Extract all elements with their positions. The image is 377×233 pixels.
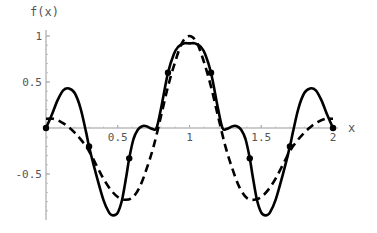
x-tick-label: 2 (330, 131, 337, 144)
data-point-marker (126, 155, 132, 161)
data-point-marker (287, 143, 293, 149)
y-tick-label: -0.5 (16, 168, 43, 181)
line-chart: 0.511.52 10.5-0.5 x f(x) (0, 0, 377, 233)
y-axis-label: f(x) (30, 5, 59, 19)
chart-container: 0.511.52 10.5-0.5 x f(x) (0, 0, 377, 233)
x-tick-label: 1 (186, 131, 193, 144)
x-tick-label: 1.5 (251, 131, 271, 144)
axes: 0.511.52 10.5-0.5 x f(x) (16, 5, 356, 220)
data-point-marker (43, 125, 49, 131)
data-point-marker (247, 155, 253, 161)
y-tick-label: 0.5 (22, 76, 42, 89)
solid-series-line (46, 43, 333, 215)
data-point-marker (330, 125, 336, 131)
data-point-marker (86, 143, 92, 149)
data-point-marker (165, 70, 171, 76)
y-ticks: 10.5-0.5 (16, 30, 51, 211)
data-point-markers (43, 70, 336, 162)
data-point-marker (208, 70, 214, 76)
x-axis-label: x (348, 121, 355, 135)
y-tick-label: 1 (35, 30, 42, 43)
dashed-series-line (46, 36, 333, 200)
x-tick-label: 0.5 (108, 131, 128, 144)
